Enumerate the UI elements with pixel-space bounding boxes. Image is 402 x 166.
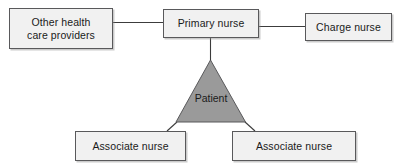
node-label-associate-nurse-left: Associate nurse xyxy=(92,140,168,153)
patient-triangle xyxy=(176,60,246,122)
node-label-associate-nurse-right: Associate nurse xyxy=(256,140,332,153)
node-label-other-health-care-providers: Other health care providers xyxy=(27,16,95,42)
node-label-charge-nurse: Charge nurse xyxy=(316,21,381,34)
node-label-primary-nurse: Primary nurse xyxy=(178,17,245,30)
node-other-health-care-providers[interactable]: Other health care providers xyxy=(9,8,113,49)
node-associate-nurse-left[interactable]: Associate nurse xyxy=(75,131,186,161)
connector-patient-to-associate-nurse-left xyxy=(167,122,177,131)
connector-patient-to-associate-nurse-right xyxy=(245,122,255,131)
diagram-canvas: Other health care providers Primary nurs… xyxy=(0,0,402,166)
node-associate-nurse-right[interactable]: Associate nurse xyxy=(232,131,356,161)
node-primary-nurse[interactable]: Primary nurse xyxy=(163,9,259,38)
node-charge-nurse[interactable]: Charge nurse xyxy=(305,13,392,41)
